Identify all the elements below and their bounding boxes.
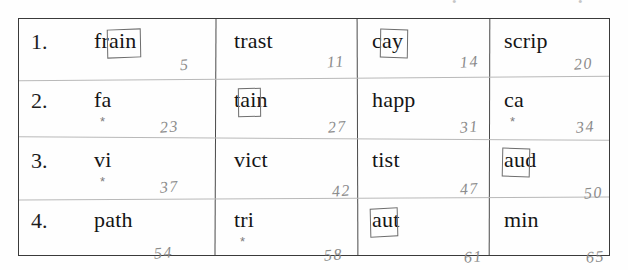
row-number: 3.	[31, 148, 48, 174]
asterisk-mark: *	[510, 114, 515, 129]
word-text: vict	[234, 147, 268, 173]
word-text: cay	[372, 28, 403, 54]
word-text: happ	[372, 87, 416, 113]
table-cell[interactable]: vict 42	[216, 138, 357, 198]
table-row: 2. fa * 23 tain 27 happ 31 ca * 34	[19, 78, 609, 138]
table-cell[interactable]: trast 11	[216, 19, 357, 79]
asterisk-mark: *	[240, 234, 245, 249]
pencil-number: 58	[323, 245, 343, 264]
table-cell[interactable]: 4. path 54	[19, 198, 215, 258]
table-cell[interactable]: tain 27	[216, 78, 357, 138]
word-text: frain	[94, 28, 137, 54]
pencil-number: 54	[153, 243, 173, 262]
table-cell[interactable]: happ 31	[358, 78, 489, 138]
top-smudge-2: •	[578, 0, 583, 10]
word-text: trast	[234, 28, 273, 54]
table-cell[interactable]: min 65	[490, 198, 611, 258]
word-text: scrip	[504, 28, 548, 54]
table-cell[interactable]: aud 50	[490, 138, 611, 198]
pencil-number: 27	[327, 117, 347, 136]
word-text: aut	[372, 207, 399, 233]
table-cell[interactable]: 1. frain 5	[19, 19, 215, 79]
top-smudge-1: •	[452, 0, 457, 10]
word-text: tain	[234, 87, 268, 113]
pencil-number: 31	[459, 117, 479, 136]
table-row: 4. path 54 tri * 58 aut 61 min 65	[19, 198, 609, 258]
word-text: fa	[94, 87, 112, 113]
asterisk-mark: *	[100, 174, 105, 189]
pencil-number: 20	[573, 54, 593, 73]
pencil-number: 23	[159, 117, 179, 136]
table-cell[interactable]: ca * 34	[490, 78, 611, 138]
pencil-number: 47	[459, 179, 479, 198]
word-text: min	[504, 207, 539, 233]
pencil-number: 14	[459, 52, 479, 71]
row-number: 1.	[31, 29, 48, 55]
pencil-number: 11	[327, 52, 346, 71]
table-row: 1. frain 5 trast 11 cay 14 scrip 20	[19, 19, 609, 79]
row-number: 2.	[31, 88, 48, 114]
word-text: tist	[372, 147, 400, 173]
pencil-number: 37	[159, 177, 179, 196]
table-cell[interactable]: aut 61	[358, 198, 489, 258]
word-text: ca	[504, 87, 524, 113]
table-cell[interactable]: 2. fa * 23	[19, 78, 215, 138]
worksheet-page: • • 1. frain 5 trast 11 cay 14	[0, 0, 628, 270]
table-row: 3. vi * 37 vict 42 tist 47 aud 50	[19, 138, 609, 198]
word-table: 1. frain 5 trast 11 cay 14 scrip 20	[18, 18, 610, 256]
pencil-number: 61	[463, 247, 483, 266]
pencil-number: 34	[575, 117, 595, 136]
asterisk-mark: *	[100, 114, 105, 129]
word-text: aud	[504, 147, 536, 173]
word-text: tri	[234, 207, 254, 233]
word-text: vi	[94, 147, 112, 173]
table-cell[interactable]: tri * 58	[216, 198, 357, 258]
table-cell[interactable]: cay 14	[358, 19, 489, 79]
table-cell[interactable]: 3. vi * 37	[19, 138, 215, 198]
word-text: path	[94, 207, 133, 233]
pencil-number: 65	[585, 247, 605, 266]
table-cell[interactable]: scrip 20	[490, 19, 611, 79]
row-number: 4.	[31, 208, 48, 234]
table-cell[interactable]: tist 47	[358, 138, 489, 198]
pencil-number: 5	[179, 56, 190, 75]
